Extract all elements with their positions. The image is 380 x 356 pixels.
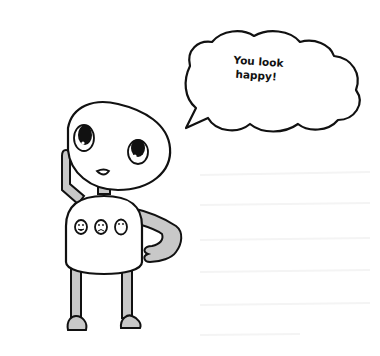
sad-face-button xyxy=(95,220,107,234)
left-leg xyxy=(68,266,87,330)
robot-body xyxy=(66,196,142,274)
left-eye xyxy=(74,125,94,151)
right-leg xyxy=(121,266,141,328)
right-eye xyxy=(128,139,148,164)
happy-face-button xyxy=(75,220,87,234)
background-lines xyxy=(200,172,370,335)
robot-illustration: You look happy! xyxy=(0,0,380,356)
illustration-canvas xyxy=(0,0,380,356)
neutral-face-button xyxy=(115,220,127,235)
speech-bubble-text: You look happy! xyxy=(232,53,304,86)
